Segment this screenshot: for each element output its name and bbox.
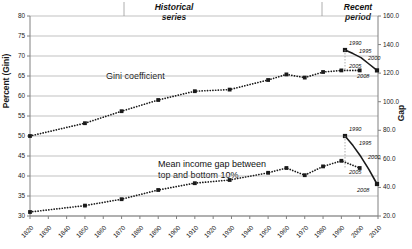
series-historical <box>28 69 361 138</box>
annotation-gini-year: 2005 <box>349 63 361 69</box>
y-axis-left-tick: 45 <box>1 152 25 159</box>
y-axis-left-tick: 50 <box>1 132 25 139</box>
y-axis-right-tick: 120.0 <box>383 69 412 76</box>
annotation-gap-year: 1990 <box>349 126 361 132</box>
annotation-gini-year: 1990 <box>349 40 361 46</box>
y-axis-left-tick: 40 <box>1 172 25 179</box>
y-axis-left-tick: 30 <box>1 212 25 219</box>
y-axis-left-tick: 75 <box>1 32 25 39</box>
annotation-gini-year: 2008 <box>357 73 369 79</box>
y-axis-right-tick: 40.0 <box>383 183 412 190</box>
y-axis-right-tick: 140.0 <box>383 41 412 48</box>
annotation-gap-year: 2005 <box>349 169 361 175</box>
y-axis-left-tick: 65 <box>1 72 25 79</box>
series-historical <box>28 159 361 214</box>
annotation-gini-year: 1995 <box>359 48 371 54</box>
y-axis-left-tick: 60 <box>1 92 25 99</box>
annotation-gap-year: 1995 <box>359 140 371 146</box>
y-axis-left-tick: 70 <box>1 52 25 59</box>
chart-container: Percent (Gini) Gap Historical series Rec… <box>0 0 412 249</box>
plot-area <box>0 0 412 249</box>
annotation-gap-year: 2008 <box>357 187 369 193</box>
y-axis-left-tick: 80 <box>1 12 25 19</box>
y-axis-right-tick: 160.0 <box>383 12 412 19</box>
y-axis-left-tick: 35 <box>1 192 25 199</box>
annotation-gini-year: 2000 <box>368 55 380 61</box>
y-axis-right-tick: 80.0 <box>383 126 412 133</box>
y-axis-right-tick: 60.0 <box>383 155 412 162</box>
y-axis-right-tick: 100.0 <box>383 98 412 105</box>
y-axis-left-tick: 55 <box>1 112 25 119</box>
y-axis-right-tick: 20.0 <box>383 212 412 219</box>
annotation-gap-year: 2000 <box>368 154 380 160</box>
